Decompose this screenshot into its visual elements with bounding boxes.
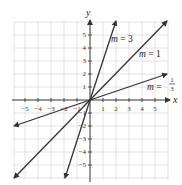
svg-text:−4: −4 [34, 105, 42, 113]
label-m-1: m = 1 [139, 49, 161, 59]
fraction-denominator: 3 [170, 85, 174, 93]
svg-text:3: 3 [83, 57, 87, 65]
svg-text:5: 5 [83, 31, 87, 39]
fraction-numerator: 1 [170, 76, 174, 84]
svg-text:3: 3 [127, 105, 131, 113]
svg-text:−5: −5 [79, 161, 87, 169]
svg-text:−5: −5 [21, 105, 29, 113]
x-axis-label: x [172, 94, 178, 105]
svg-text:−4: −4 [79, 148, 87, 156]
svg-text:−3: −3 [79, 135, 87, 143]
grid [14, 22, 168, 180]
svg-text:1: 1 [83, 83, 87, 91]
svg-text:2: 2 [83, 70, 87, 78]
svg-text:1: 1 [101, 105, 105, 113]
slope-graph: x y −5 −4 −3 −2 −1 1 2 3 4 5 [0, 0, 182, 185]
svg-text:4: 4 [140, 105, 144, 113]
y-axis-label: y [85, 7, 91, 18]
svg-text:5: 5 [153, 105, 157, 113]
svg-text:2: 2 [114, 105, 118, 113]
x-tick-labels: −5 −4 −3 −2 −1 1 2 3 4 5 [21, 105, 157, 113]
svg-text:4: 4 [83, 44, 87, 52]
label-m-third: m = [147, 82, 162, 92]
label-m-3: m = 3 [111, 34, 133, 44]
